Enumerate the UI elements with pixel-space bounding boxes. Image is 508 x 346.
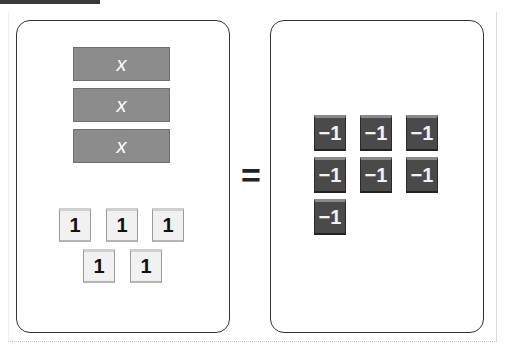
negative-unit-tile[interactable]: −1: [314, 115, 346, 151]
positive-unit-tile[interactable]: 1: [83, 249, 115, 283]
positive-unit-tile[interactable]: 1: [130, 249, 162, 283]
negative-unit-tile[interactable]: −1: [406, 157, 438, 193]
negative-unit-tile[interactable]: −1: [360, 115, 392, 151]
positive-unit-tile[interactable]: 1: [152, 208, 184, 242]
negative-unit-tile[interactable]: −1: [360, 157, 392, 193]
x-tile[interactable]: x: [73, 129, 170, 163]
positive-unit-tile[interactable]: 1: [106, 208, 138, 242]
negative-unit-tile[interactable]: −1: [406, 115, 438, 151]
x-tile[interactable]: x: [73, 47, 170, 81]
negative-unit-tile[interactable]: −1: [314, 199, 346, 235]
header-bar: [0, 0, 100, 4]
positive-unit-tile[interactable]: 1: [59, 208, 91, 242]
negative-unit-tile[interactable]: −1: [314, 157, 346, 193]
equals-sign: =: [237, 158, 265, 192]
x-tile[interactable]: x: [73, 88, 170, 122]
